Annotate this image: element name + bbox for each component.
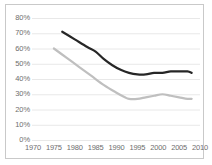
data-series-lines — [54, 32, 192, 99]
y-tick-label: 40% — [4, 75, 30, 83]
y-tick-label: 10% — [4, 121, 30, 129]
y-tick-label: 70% — [4, 29, 30, 37]
y-tick-label: 20% — [4, 106, 30, 114]
y-tick-label: 60% — [4, 45, 30, 53]
x-tick-label: 1980 — [64, 144, 86, 152]
series-line-series-light — [54, 49, 192, 100]
x-tick-label: 2000 — [147, 144, 169, 152]
line-chart-plot — [0, 0, 212, 165]
gridlines — [32, 19, 200, 141]
x-tick-label: 1990 — [106, 144, 128, 152]
x-tick-label: 2010 — [189, 144, 211, 152]
y-tick-label: 30% — [4, 90, 30, 98]
x-tick-label: 2005 — [168, 144, 190, 152]
y-tick-label: 50% — [4, 60, 30, 68]
x-tick-label: 1985 — [85, 144, 107, 152]
x-tick-label: 1970 — [22, 144, 44, 152]
y-tick-label: 80% — [4, 14, 30, 22]
x-tick-label: 1995 — [126, 144, 148, 152]
x-tick-label: 1975 — [43, 144, 65, 152]
